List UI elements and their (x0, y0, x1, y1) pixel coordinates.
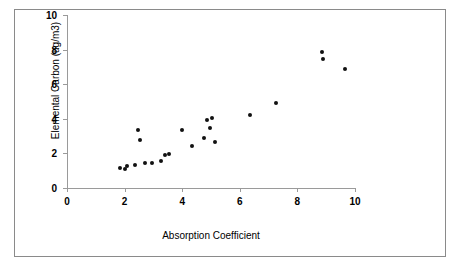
data-point (136, 128, 140, 132)
data-point (343, 67, 347, 71)
y-tick (63, 119, 68, 120)
data-point (150, 161, 154, 165)
y-tick-label: 0 (51, 183, 57, 194)
y-tick (63, 153, 68, 154)
data-point (210, 116, 214, 120)
data-point (248, 113, 252, 117)
x-tick (355, 188, 356, 192)
x-tick (182, 188, 183, 192)
x-tick (240, 188, 241, 192)
x-axis-line (67, 188, 355, 189)
data-point (202, 136, 206, 140)
data-point (125, 164, 129, 168)
y-tick-label: 8 (51, 44, 57, 55)
y-axis-label-wrap: Elemental Carbon (ug/m3) (33, 30, 49, 190)
data-point (123, 167, 127, 171)
data-point (274, 101, 278, 105)
y-tick-label: 10 (46, 10, 57, 21)
y-tick-label: 6 (51, 79, 57, 90)
x-tick-label: 2 (122, 196, 128, 207)
y-axis-line (67, 15, 68, 189)
data-point (190, 144, 194, 148)
data-point (133, 163, 137, 167)
data-point (167, 152, 171, 156)
y-tick (63, 84, 68, 85)
data-point (143, 161, 147, 165)
y-tick (63, 50, 68, 51)
x-tick (125, 188, 126, 192)
plot-area: 0246810 0246810 (67, 15, 355, 188)
y-tick-label: 4 (51, 113, 57, 124)
x-tick-label: 6 (237, 196, 243, 207)
chart-figure: Elemental Carbon (ug/m3) 0246810 0246810… (14, 9, 446, 257)
y-tick-label: 2 (51, 148, 57, 159)
data-point (205, 118, 209, 122)
data-point (159, 159, 163, 163)
x-tick-label: 0 (64, 196, 70, 207)
x-tick (297, 188, 298, 192)
x-axis-label: Absorption Coefficient (67, 230, 355, 241)
x-tick-label: 4 (179, 196, 185, 207)
data-point (138, 138, 142, 142)
data-point (321, 57, 325, 61)
data-point (213, 140, 217, 144)
y-tick (63, 15, 68, 16)
y-tick (63, 188, 68, 189)
data-point (320, 50, 324, 54)
x-tick-label: 8 (295, 196, 301, 207)
data-point (180, 128, 184, 132)
x-tick-label: 10 (349, 196, 360, 207)
data-point (208, 126, 212, 130)
